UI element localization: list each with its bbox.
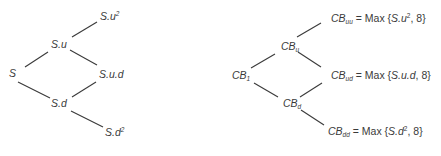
- node-sud: S.u.d: [99, 68, 124, 80]
- node-su2-base: S.u: [100, 10, 116, 22]
- node-cbu-sub: u: [296, 46, 300, 53]
- node-cbuu: CBuu = Max {S.u2, 8}: [331, 12, 426, 24]
- node-cbud-strike: , 8}: [416, 69, 431, 81]
- node-cbud-max: = Max {: [353, 69, 391, 81]
- node-cbud-prefix: CB: [331, 69, 346, 81]
- node-cbud-arg: S.u.d: [391, 69, 416, 81]
- node-sd2-base: S.d: [105, 126, 121, 138]
- edge-s-sd: [18, 82, 50, 98]
- edge-sd-sud: [72, 82, 96, 97]
- node-s: S: [9, 67, 16, 79]
- node-cbd: CBd: [283, 97, 301, 109]
- edge-cb1-cbd: [254, 83, 278, 97]
- node-su2-exp: 2: [116, 10, 120, 17]
- node-cbuu-max: = Max {: [353, 12, 391, 24]
- node-cb1-sub: 1: [247, 75, 251, 82]
- node-cbu-prefix: CB: [281, 40, 296, 52]
- node-cbdd-arg: S.d: [388, 125, 404, 137]
- node-sd: S.d: [51, 97, 67, 109]
- node-cbdd-sub: dd: [343, 131, 350, 138]
- node-sud-label: S.u.d: [99, 68, 124, 80]
- node-cbud-sub: ud: [346, 75, 353, 82]
- node-cbud: CBud = Max {S.u.d, 8}: [331, 69, 431, 81]
- node-su: S.u: [51, 38, 67, 50]
- node-cbuu-strike: , 8}: [410, 12, 425, 24]
- edge-sd-sd2: [71, 111, 103, 127]
- node-cb1-prefix: CB: [232, 69, 247, 81]
- node-sd2-exp: 2: [121, 126, 125, 133]
- node-cb1: CB1: [232, 69, 250, 81]
- node-cbu: CBu: [281, 40, 299, 52]
- node-s-label: S: [9, 67, 16, 79]
- node-sd2: S.d2: [105, 126, 124, 138]
- node-cbd-prefix: CB: [283, 97, 298, 109]
- node-cbuu-prefix: CB: [331, 12, 346, 24]
- edge-cbu-cbuu: [297, 23, 321, 37]
- edge-cb1-cbu: [251, 54, 275, 68]
- node-su-label: S.u: [51, 38, 67, 50]
- node-cbd-sub: d: [298, 103, 302, 110]
- node-sd-label: S.d: [51, 97, 67, 109]
- edge-cbu-cbud: [298, 52, 321, 67]
- node-cbdd-prefix: CB: [328, 125, 343, 137]
- node-cbdd-strike: , 8}: [407, 125, 422, 137]
- binomial-tree-diagram: S S.u S.d S.u2 S.u.d S.d2 CB1 CBu CBd CB…: [0, 0, 441, 156]
- edge-cbd-cbud: [300, 83, 322, 97]
- edge-su-sud: [70, 50, 97, 65]
- node-su2: S.u2: [100, 10, 119, 22]
- node-cbdd: CBdd = Max {S.d2, 8}: [328, 125, 423, 137]
- edge-su-su2: [72, 22, 97, 37]
- edge-s-su: [25, 52, 48, 67]
- node-cbuu-arg: S.u: [391, 12, 407, 24]
- edge-cbd-cbdd: [301, 110, 324, 125]
- node-cbuu-sub: uu: [346, 18, 353, 25]
- node-cbdd-max: = Max {: [350, 125, 388, 137]
